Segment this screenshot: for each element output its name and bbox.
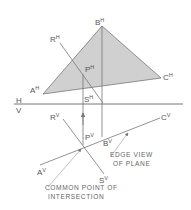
label-r-v: RV [50,112,60,122]
edge-view-note-line2: OF PLANE [113,160,150,167]
label-p-v: PV [85,132,94,142]
piercing-point-diagram: H V BH RH PH CH AH SH RV CV PV BV AV SV … [0,0,191,210]
label-b-v: BV [103,138,112,148]
label-b-h: BH [95,17,104,27]
label-a-h: AH [30,85,39,95]
line-rs-vertical [63,119,104,174]
label-s-h: SH [84,94,93,104]
common-point-leader [48,149,81,187]
label-a-v: AV [37,167,46,177]
edge-view-note-line1: EDGE VIEW [110,151,153,158]
label-c-v: CV [161,112,171,122]
fold-label-h: H [16,96,22,105]
label-r-h: RH [50,34,60,44]
common-point-note-line2: INTERSECTION [48,193,104,200]
common-point-note-line1: COMMON POINT OF [45,184,118,191]
label-c-h: CH [163,72,173,82]
fold-label-v: V [16,106,22,115]
